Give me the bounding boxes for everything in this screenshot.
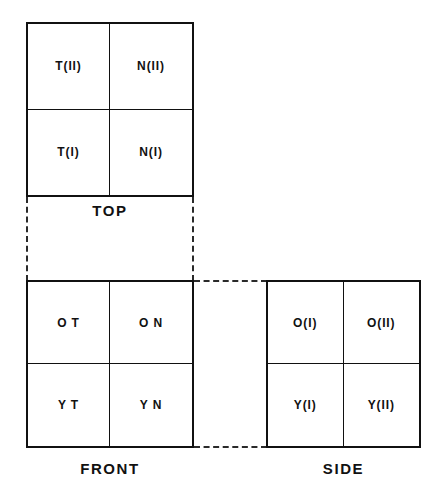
top-cell-lower-left: T(I) [28, 110, 110, 196]
projection-line-left-vertical [26, 197, 28, 281]
side-cell-upper-right: O(II) [344, 282, 420, 364]
side-cell-upper-left: O(I) [268, 282, 344, 364]
top-view-box: T(II) N(II) T(I) N(I) [26, 22, 194, 197]
top-cell-upper-right: N(II) [110, 24, 192, 110]
top-cell-lower-right: N(I) [110, 110, 192, 196]
front-cell-upper-left: O T [28, 282, 110, 364]
top-cell-upper-left: T(II) [28, 24, 110, 110]
projection-line-right-vertical [192, 197, 194, 281]
side-cell-lower-left: Y(I) [268, 364, 344, 446]
side-cell-lower-right: Y(II) [344, 364, 420, 446]
front-cell-upper-right: O N [110, 282, 192, 364]
projection-line-lower-horizontal [194, 446, 267, 448]
front-cell-lower-right: Y N [110, 364, 192, 446]
top-view-label: TOP [26, 203, 194, 218]
front-view-label: FRONT [26, 461, 194, 476]
front-view-box: O T O N Y T Y N [26, 280, 194, 448]
side-view-box: O(I) O(II) Y(I) Y(II) [266, 280, 421, 448]
projection-line-upper-horizontal [194, 280, 267, 282]
front-cell-lower-left: Y T [28, 364, 110, 446]
orthographic-projection-diagram: T(II) N(II) T(I) N(I) TOP O T O N Y T Y … [0, 0, 447, 493]
side-view-label: SIDE [266, 461, 421, 476]
